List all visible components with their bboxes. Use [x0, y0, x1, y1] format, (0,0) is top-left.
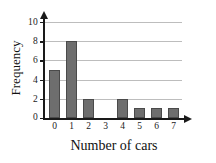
y-tick-mark-2: [40, 99, 45, 100]
y-tick-label-8: 8: [33, 36, 38, 46]
bar-4: [117, 99, 128, 118]
y-tick-mark-4: [40, 80, 45, 81]
y-axis-title: Frequency: [8, 18, 24, 118]
bar-5: [134, 108, 145, 118]
y-axis-arrow-icon: [40, 11, 48, 19]
bar-0: [49, 70, 60, 118]
y-tick-mark-0: [40, 118, 45, 119]
y-tick-label-10: 10: [28, 17, 38, 27]
y-axis-line: [43, 17, 45, 119]
y-tick-label-6: 6: [33, 55, 38, 65]
bar-chart: 10 8 6 4 2 0 0 1 2 3 4 5 6 7 Frequency N…: [0, 0, 216, 163]
bar-6: [151, 108, 162, 118]
gridline-10: [44, 22, 182, 23]
y-tick-mark-10: [40, 22, 45, 23]
x-axis-line: [43, 118, 185, 120]
gridline-4: [44, 80, 182, 81]
y-tick-label-0: 0: [33, 112, 38, 122]
gridline-2: [44, 99, 182, 100]
x-tick-label-7: 7: [164, 121, 184, 131]
bar-7: [168, 108, 179, 118]
x-axis-title: Number of cars: [44, 138, 184, 154]
y-tick-label-4: 4: [33, 75, 38, 85]
gridline-8: [44, 41, 182, 42]
y-tick-mark-8: [40, 41, 45, 42]
x-axis-arrow-icon: [184, 115, 192, 123]
y-tick-label-2: 2: [33, 94, 38, 104]
gridline-6: [44, 60, 182, 61]
y-tick-mark-6: [40, 60, 45, 61]
plot-area: [44, 22, 182, 118]
bar-2: [83, 99, 94, 118]
bar-1: [66, 41, 77, 118]
